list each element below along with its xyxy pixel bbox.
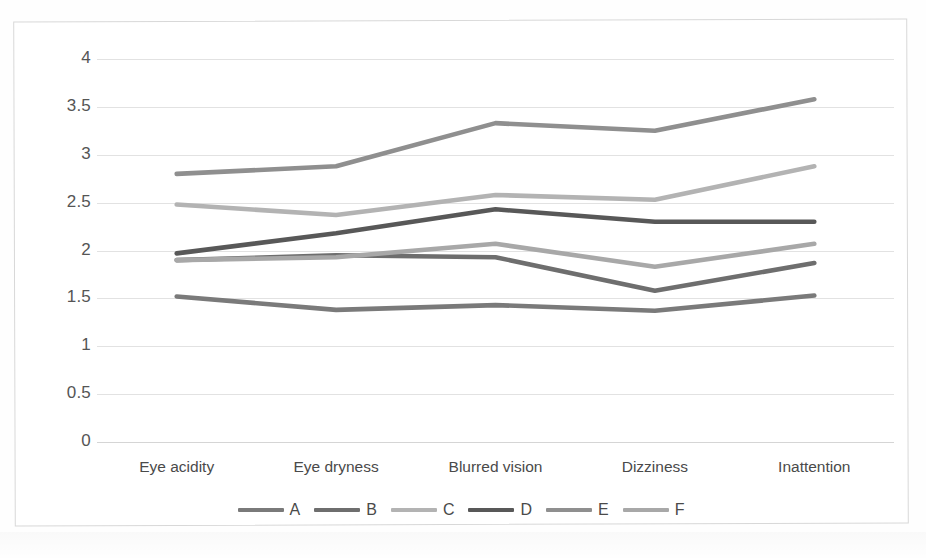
y-axis-tick-labels: 00.511.522.533.54 — [36, 59, 91, 442]
y-axis-tick-label: 1.5 — [45, 287, 91, 307]
x-axis-tick-label: Eye acidity — [139, 458, 214, 476]
line-chart: 00.511.522.533.54 Eye acidityEye dryness… — [14, 20, 908, 525]
legend-label-d: D — [520, 502, 532, 518]
series-line-e — [177, 99, 815, 174]
y-axis-tick-label: 0.5 — [45, 383, 91, 403]
y-axis-tick-label: 3 — [45, 144, 91, 164]
legend-swatch-b — [314, 508, 360, 512]
chart-legend: ABCDEF — [14, 502, 908, 518]
y-axis-tick-label: 2.5 — [45, 192, 91, 212]
legend-item-c[interactable]: C — [391, 502, 455, 518]
y-axis-tick-label: 1 — [45, 335, 91, 355]
legend-item-f[interactable]: F — [623, 502, 685, 518]
scan-shadow — [0, 532, 926, 558]
legend-swatch-d — [468, 508, 514, 512]
legend-swatch-a — [238, 508, 284, 512]
legend-item-d[interactable]: D — [468, 502, 532, 518]
x-axis-tick-label: Dizziness — [622, 458, 688, 476]
legend-label-c: C — [443, 502, 455, 518]
series-line-d — [177, 209, 815, 253]
data-lines — [97, 59, 894, 442]
gridline — [97, 442, 894, 443]
x-axis-tick-label: Eye dryness — [293, 458, 378, 476]
legend-swatch-e — [546, 508, 592, 512]
y-axis-tick-label: 4 — [45, 48, 91, 68]
y-axis-tick-label: 3.5 — [45, 96, 91, 116]
legend-item-a[interactable]: A — [238, 502, 301, 518]
legend-label-a: A — [290, 502, 301, 518]
x-axis-tick-label: Blurred vision — [449, 458, 543, 476]
legend-label-f: F — [675, 502, 685, 518]
legend-label-b: B — [366, 502, 377, 518]
legend-swatch-f — [623, 508, 669, 512]
page-background: 00.511.522.533.54 Eye acidityEye dryness… — [0, 0, 926, 558]
plot-area — [97, 59, 894, 442]
legend-label-e: E — [598, 502, 609, 518]
legend-swatch-c — [391, 508, 437, 512]
x-axis-tick-labels: Eye acidityEye drynessBlurred visionDizz… — [97, 452, 894, 484]
legend-item-e[interactable]: E — [546, 502, 609, 518]
y-axis-tick-label: 0 — [45, 431, 91, 451]
series-line-a — [177, 296, 815, 311]
y-axis-tick-label: 2 — [45, 240, 91, 260]
legend-item-b[interactable]: B — [314, 502, 377, 518]
x-axis-tick-label: Inattention — [778, 458, 850, 476]
